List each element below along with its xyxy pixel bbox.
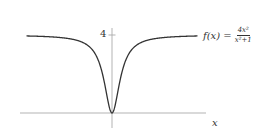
formula-numerator: 4x² — [237, 27, 250, 36]
formula-lhs: f(x) = — [203, 30, 232, 41]
function-plot — [0, 0, 276, 133]
formula-denominator: x²+1 — [235, 36, 252, 44]
function-legend: f(x) = 4x² x²+1 — [203, 27, 252, 44]
y-tick-label-4: 4 — [100, 28, 106, 39]
formula-fraction: 4x² x²+1 — [235, 27, 252, 44]
x-axis-label: x — [212, 117, 218, 128]
